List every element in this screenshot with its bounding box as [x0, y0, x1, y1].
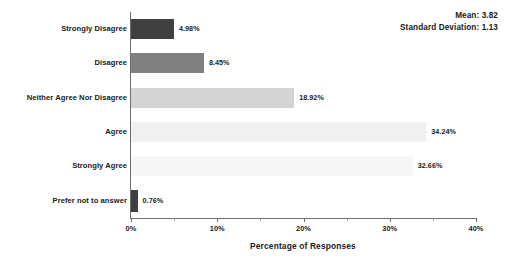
x-axis-tick-label: 30% — [370, 224, 410, 233]
x-axis-tick — [304, 218, 305, 222]
category-label: Neither Agree Nor Disagree — [27, 93, 127, 103]
x-axis-minor-tick — [260, 218, 261, 221]
x-axis-tick-label: 10% — [197, 224, 237, 233]
x-axis-tick — [131, 218, 132, 222]
y-axis-line — [130, 12, 131, 218]
bar — [131, 190, 138, 212]
bar-value-label: 32.66% — [418, 161, 443, 171]
x-axis-tick — [390, 218, 391, 222]
bar — [131, 88, 294, 108]
bar-value-label: 0.76% — [143, 196, 164, 206]
x-axis-tick — [217, 218, 218, 222]
bar — [131, 122, 426, 142]
bar — [131, 156, 413, 176]
x-axis-tick-label: 40% — [456, 224, 496, 233]
x-axis-title: Percentage of Responses — [130, 241, 476, 251]
x-axis-minor-tick — [433, 218, 434, 221]
category-label: Prefer not to answer — [53, 196, 127, 206]
category-label: Agree — [105, 127, 127, 137]
category-label: Strongly Agree — [72, 161, 127, 171]
plot-area: Percentage of Responses Strongly Disagre… — [0, 0, 506, 270]
bar — [131, 53, 204, 73]
category-label: Strongly Disagree — [61, 24, 127, 34]
x-axis-tick — [476, 218, 477, 222]
bar — [131, 19, 174, 39]
survey-response-bar-chart: Mean: 3.82 Standard Deviation: 1.13 Perc… — [0, 0, 506, 270]
x-axis-tick-label: 20% — [284, 224, 324, 233]
category-label: Disagree — [95, 58, 127, 68]
x-axis-minor-tick — [174, 218, 175, 221]
bar-value-label: 8.45% — [209, 58, 230, 68]
bar-value-label: 4.98% — [179, 24, 200, 34]
bar-value-label: 18.92% — [299, 93, 324, 103]
x-axis-minor-tick — [347, 218, 348, 221]
x-axis-tick-label: 0% — [111, 224, 151, 233]
bar-value-label: 34.24% — [431, 127, 456, 137]
